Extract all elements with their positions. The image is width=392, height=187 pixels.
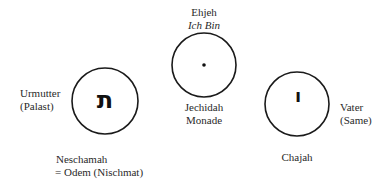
right-caption-1: Chajah	[281, 151, 312, 164]
right-side-label-2: (Same)	[340, 114, 372, 127]
left-caption-2: = Odem (Nischmat)	[55, 166, 143, 179]
top-caption-2: Monade	[186, 114, 222, 127]
top-subtitle: Ich Bin	[188, 19, 220, 32]
left-side-label-2: (Palast)	[20, 100, 54, 113]
left-caption-1: Neschamah	[56, 153, 107, 166]
left-side-label-1: Urmutter	[20, 87, 60, 100]
center-point-icon	[202, 63, 206, 67]
right-side-label-1: Vater	[340, 101, 363, 114]
top-caption-1: Jechidah	[185, 101, 223, 114]
top-title: Ehjeh	[191, 6, 217, 19]
hebrew-tav-icon: ת	[97, 86, 113, 114]
hebrew-vav-icon: ו	[295, 86, 301, 106]
